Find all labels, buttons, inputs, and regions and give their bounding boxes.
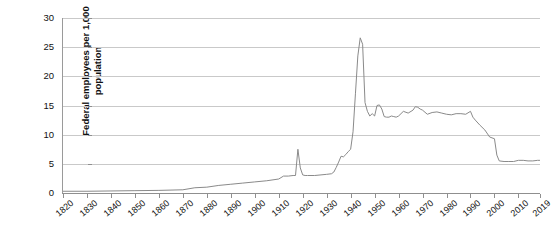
x-tick-label-2010: 2010 (505, 198, 531, 222)
x-tick-label-1950: 1950 (361, 198, 387, 222)
chart-container: Federal employees per 1,000 population 0… (0, 0, 555, 236)
x-tick-mark-1840 (111, 194, 112, 198)
x-tick-mark-1930 (327, 194, 328, 198)
x-tick-mark-2010 (518, 194, 519, 198)
x-tick-label-1960: 1960 (385, 198, 411, 222)
x-tick-mark-1860 (159, 194, 160, 198)
x-tick-mark-1900 (255, 194, 256, 198)
x-tick-mark-1970 (423, 194, 424, 198)
data-series-line (63, 18, 540, 193)
x-tick-mark-1910 (279, 194, 280, 198)
x-tick-label-1920: 1920 (289, 198, 315, 222)
x-tick-mark-1870 (183, 194, 184, 198)
x-tick-mark-1980 (447, 194, 448, 198)
y-axis-ticks: 051015202530 (30, 0, 58, 236)
x-tick-label-1980: 1980 (433, 198, 459, 222)
y-tick-label-30: 30 (28, 13, 54, 23)
x-tick-label-1970: 1970 (409, 198, 435, 222)
x-tick-label-1860: 1860 (145, 198, 171, 222)
x-tick-mark-1950 (375, 194, 376, 198)
x-tick-label-1930: 1930 (313, 198, 339, 222)
x-tick-label-1890: 1890 (217, 198, 243, 222)
y-tick-label-20: 20 (28, 71, 54, 81)
x-tick-mark-1820 (63, 194, 64, 198)
y-tick-label-25: 25 (28, 42, 54, 52)
x-tick-label-1940: 1940 (337, 198, 363, 222)
y-tick-label-10: 10 (28, 130, 54, 140)
x-tick-mark-1960 (399, 194, 400, 198)
y-tick-label-15: 15 (28, 101, 54, 111)
x-tick-mark-1880 (207, 194, 208, 198)
x-tick-label-2019: 2019 (526, 198, 552, 222)
y-tick-label-0: 0 (28, 188, 54, 198)
x-axis-line (62, 193, 540, 194)
x-tick-mark-1890 (231, 194, 232, 198)
x-tick-label-2000: 2000 (481, 198, 507, 222)
y-tick-mark-0 (88, 193, 92, 194)
x-tick-label-1850: 1850 (121, 198, 147, 222)
series-polyline (63, 38, 540, 191)
x-tick-label-1900: 1900 (241, 198, 267, 222)
x-tick-label-1840: 1840 (97, 198, 123, 222)
x-tick-label-1880: 1880 (193, 198, 219, 222)
x-tick-mark-2000 (494, 194, 495, 198)
x-tick-label-1830: 1830 (73, 198, 99, 222)
x-tick-mark-1920 (303, 194, 304, 198)
x-tick-mark-1850 (135, 194, 136, 198)
x-tick-mark-1990 (470, 194, 471, 198)
x-tick-mark-2019 (540, 194, 541, 198)
x-tick-label-1910: 1910 (265, 198, 291, 222)
x-tick-label-1870: 1870 (169, 198, 195, 222)
x-tick-mark-1830 (87, 194, 88, 198)
y-tick-label-5: 5 (28, 159, 54, 169)
x-tick-mark-1940 (351, 194, 352, 198)
x-tick-label-1990: 1990 (457, 198, 483, 222)
